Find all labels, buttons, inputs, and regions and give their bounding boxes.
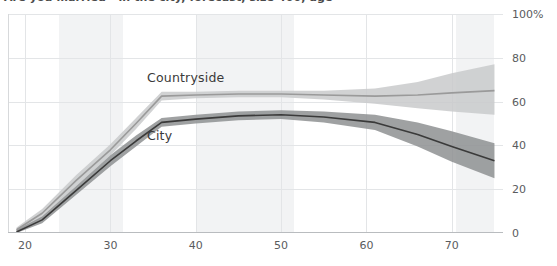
- plot-area: CountrysideCity: [8, 14, 503, 233]
- y-tick-label: 40: [512, 139, 526, 152]
- series-layer: [8, 14, 503, 233]
- x-tick-label: 70: [445, 239, 459, 252]
- x-axis-line: [8, 232, 503, 233]
- y-tick-label: 0: [512, 227, 519, 240]
- x-tick-label: 50: [274, 239, 288, 252]
- chart-title: Are you married - in the city, forecast,…: [4, 0, 333, 4]
- series-label: Countryside: [147, 70, 224, 85]
- plot-inner: CountrysideCity: [8, 14, 503, 233]
- series-label: City: [147, 128, 172, 143]
- x-tick-label: 20: [18, 239, 32, 252]
- y-tick-label: 60: [512, 95, 526, 108]
- x-tick-label: 30: [103, 239, 117, 252]
- y-tick-label: 80: [512, 51, 526, 64]
- y-tick-label: 100%: [512, 8, 543, 21]
- chart-container: Are you married - in the city, forecast,…: [0, 0, 557, 266]
- y-axis-tick-labels: 020406080100%: [512, 14, 557, 233]
- y-axis-line: [8, 14, 9, 233]
- x-axis-tick-labels: 203040506070: [8, 239, 503, 259]
- x-tick-label: 40: [189, 239, 203, 252]
- y-tick-label: 20: [512, 183, 526, 196]
- x-tick-label: 60: [359, 239, 373, 252]
